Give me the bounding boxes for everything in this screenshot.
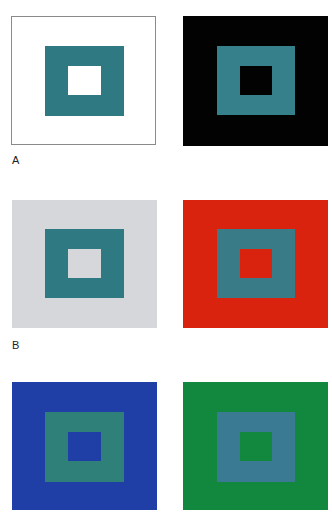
center-square [68,432,101,461]
panel-a-right-black [183,16,328,146]
teal-square [217,46,295,115]
teal-square [45,229,124,298]
center-square [240,66,272,95]
panel-c-right-green [183,382,328,510]
teal-square [45,412,124,482]
center-square [68,66,101,95]
center-square [240,432,272,461]
teal-square [217,229,295,298]
panel-a-left-white [11,16,156,145]
row-label-a: A [12,155,19,166]
panel-b-left-gray [12,200,157,328]
center-square [68,249,101,278]
panel-c-left-blue [12,382,157,510]
row-label-b: B [12,340,19,351]
teal-square [217,412,295,482]
panel-b-right-red [183,200,328,328]
center-square [240,249,272,278]
teal-square [45,46,124,116]
